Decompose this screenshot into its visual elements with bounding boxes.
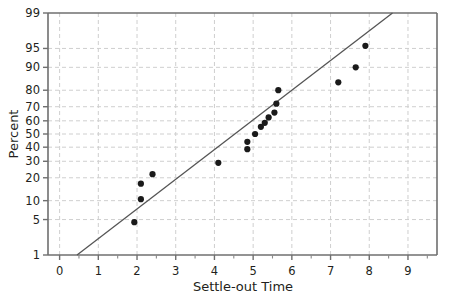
x-tick-label: 4 xyxy=(211,264,218,278)
y-tick-label: 70 xyxy=(25,100,40,114)
data-point xyxy=(149,171,155,177)
y-tick-label: 10 xyxy=(25,194,40,208)
data-point xyxy=(353,64,359,70)
y-tick-label: 20 xyxy=(25,171,40,185)
x-tick-label: 1 xyxy=(95,264,102,278)
data-point xyxy=(335,79,341,85)
x-tick-label: 5 xyxy=(249,264,256,278)
y-tick-label: 50 xyxy=(25,127,40,141)
y-tick-label: 60 xyxy=(25,114,40,128)
y-tick-label: 95 xyxy=(25,41,40,55)
x-tick-label: 7 xyxy=(327,264,334,278)
x-tick-label: 8 xyxy=(366,264,373,278)
y-tick-label: 90 xyxy=(25,60,40,74)
y-tick-label: 1 xyxy=(33,248,40,262)
x-tick-label: 0 xyxy=(56,264,63,278)
y-tick-label: 30 xyxy=(25,154,40,168)
data-point xyxy=(138,196,144,202)
data-point xyxy=(362,43,368,49)
data-point xyxy=(252,131,258,137)
data-point xyxy=(138,181,144,187)
y-tick-label: 80 xyxy=(25,83,40,97)
data-point xyxy=(266,114,272,120)
data-point xyxy=(131,219,137,225)
data-point xyxy=(273,101,279,107)
x-axis-title: Settle-out Time xyxy=(193,279,293,294)
y-tick-label: 40 xyxy=(25,140,40,154)
chart-canvas: 0123456789 151020304050607080909599 Sett… xyxy=(0,0,451,300)
x-tick-label: 6 xyxy=(288,264,295,278)
data-point xyxy=(275,87,281,93)
y-tick-label: 5 xyxy=(33,213,40,227)
y-tick-label: 99 xyxy=(25,6,40,20)
x-tick-label: 9 xyxy=(404,264,411,278)
normal-probability-plot: 0123456789 151020304050607080909599 Sett… xyxy=(0,0,451,300)
data-point xyxy=(262,120,268,126)
data-point xyxy=(244,146,250,152)
data-point xyxy=(271,109,277,115)
x-tick-label: 2 xyxy=(133,264,140,278)
data-point xyxy=(215,160,221,166)
x-tick-label: 3 xyxy=(172,264,179,278)
data-point xyxy=(244,139,250,145)
y-axis-title: Percent xyxy=(6,110,21,159)
